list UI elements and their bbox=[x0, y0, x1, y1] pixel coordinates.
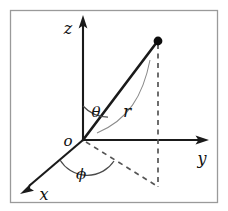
x-axis-label: x bbox=[39, 185, 48, 204]
point-marker bbox=[154, 37, 163, 46]
spherical-coordinates-figure: z y x o θ ϕ r bbox=[0, 0, 228, 211]
radius-label: r bbox=[123, 101, 132, 121]
figure-frame bbox=[11, 11, 218, 203]
diagram-canvas: z y x o θ ϕ r bbox=[0, 0, 228, 211]
z-axis-label: z bbox=[63, 19, 73, 38]
phi-label: ϕ bbox=[76, 165, 86, 183]
theta-label: θ bbox=[91, 103, 100, 121]
origin-label: o bbox=[63, 132, 72, 150]
y-axis-label: y bbox=[196, 149, 207, 168]
